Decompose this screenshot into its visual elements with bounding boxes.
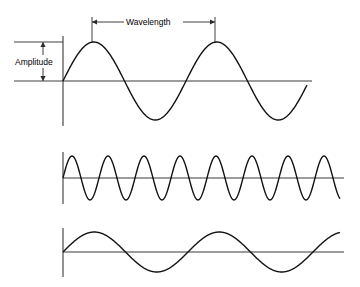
wavelength-label: Wavelength [126,17,171,27]
amplitude-arrowhead-up [40,42,45,47]
wave-1-group: Amplitude Wavelength [13,15,312,126]
wave-properties-diagram: Amplitude Wavelength [0,0,360,287]
amplitude-label: Amplitude [15,57,53,67]
amplitude-arrowhead-down [40,76,45,81]
wave-3-group [63,228,344,277]
wavelength-arrowhead-left [92,19,97,24]
wavelength-arrowhead-right [210,19,215,24]
wave-2-group [63,152,344,204]
